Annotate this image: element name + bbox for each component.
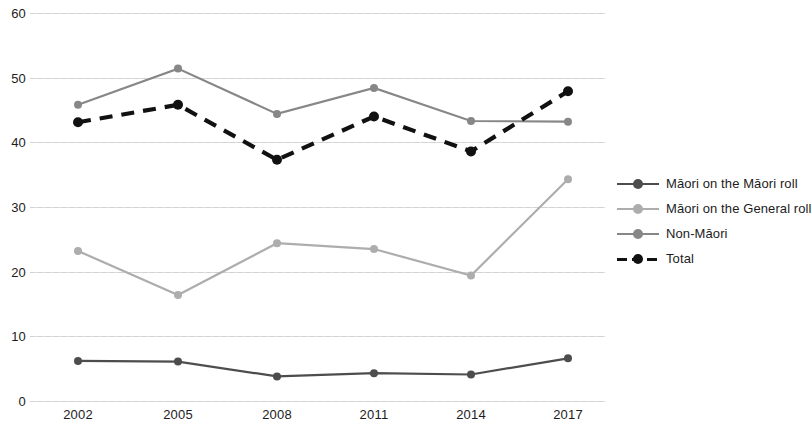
data-point <box>467 272 475 280</box>
x-axis-tick-label: 2014 <box>436 408 506 422</box>
legend-item[interactable]: Māori on the General roll <box>617 196 797 221</box>
x-axis-tick-label: 2002 <box>43 408 113 422</box>
data-point <box>74 247 82 255</box>
data-point <box>272 155 282 165</box>
data-point <box>73 117 83 127</box>
data-point <box>564 354 572 362</box>
data-point <box>466 146 476 156</box>
legend-swatch <box>617 252 659 266</box>
data-point <box>174 65 182 73</box>
data-point <box>467 117 475 125</box>
series-1 <box>74 354 572 380</box>
data-point <box>273 372 281 380</box>
legend-label: Non-Māori <box>666 226 728 241</box>
data-point <box>369 111 379 121</box>
x-axis-tick-label: 2017 <box>533 408 603 422</box>
x-axis-tick-label: 2008 <box>242 408 312 422</box>
data-point <box>370 84 378 92</box>
data-point <box>273 110 281 118</box>
data-point <box>564 118 572 126</box>
data-point <box>564 175 572 183</box>
x-axis-tick-label: 2005 <box>143 408 213 422</box>
series-line <box>78 179 568 295</box>
legend-label: Māori on the Māori roll <box>666 176 798 191</box>
legend-swatch <box>617 177 659 191</box>
legend-swatch <box>617 202 659 216</box>
chart-legend: Māori on the Māori rollMāori on the Gene… <box>617 171 797 271</box>
legend-label: Total <box>666 251 694 266</box>
legend-marker-icon <box>633 254 643 264</box>
data-point <box>173 100 183 110</box>
legend-marker-icon <box>633 229 643 239</box>
data-point <box>273 239 281 247</box>
data-point <box>467 370 475 378</box>
series-2 <box>74 175 572 299</box>
legend-marker-icon <box>633 204 643 214</box>
legend-item[interactable]: Non-Māori <box>617 221 797 246</box>
data-point <box>74 357 82 365</box>
data-point <box>174 358 182 366</box>
legend-label: Māori on the General roll <box>666 201 812 216</box>
data-point <box>174 291 182 299</box>
x-axis-tick-label: 2011 <box>339 408 409 422</box>
data-point <box>74 101 82 109</box>
series-3 <box>74 65 572 126</box>
legend-item[interactable]: Māori on the Māori roll <box>617 171 797 196</box>
data-point <box>370 369 378 377</box>
series-line <box>78 358 568 376</box>
legend-swatch <box>617 227 659 241</box>
data-point <box>370 245 378 253</box>
legend-marker-icon <box>633 179 643 189</box>
series-line <box>78 69 568 122</box>
series-4 <box>73 86 573 165</box>
legend-item[interactable]: Total <box>617 246 797 271</box>
data-point <box>563 86 573 96</box>
